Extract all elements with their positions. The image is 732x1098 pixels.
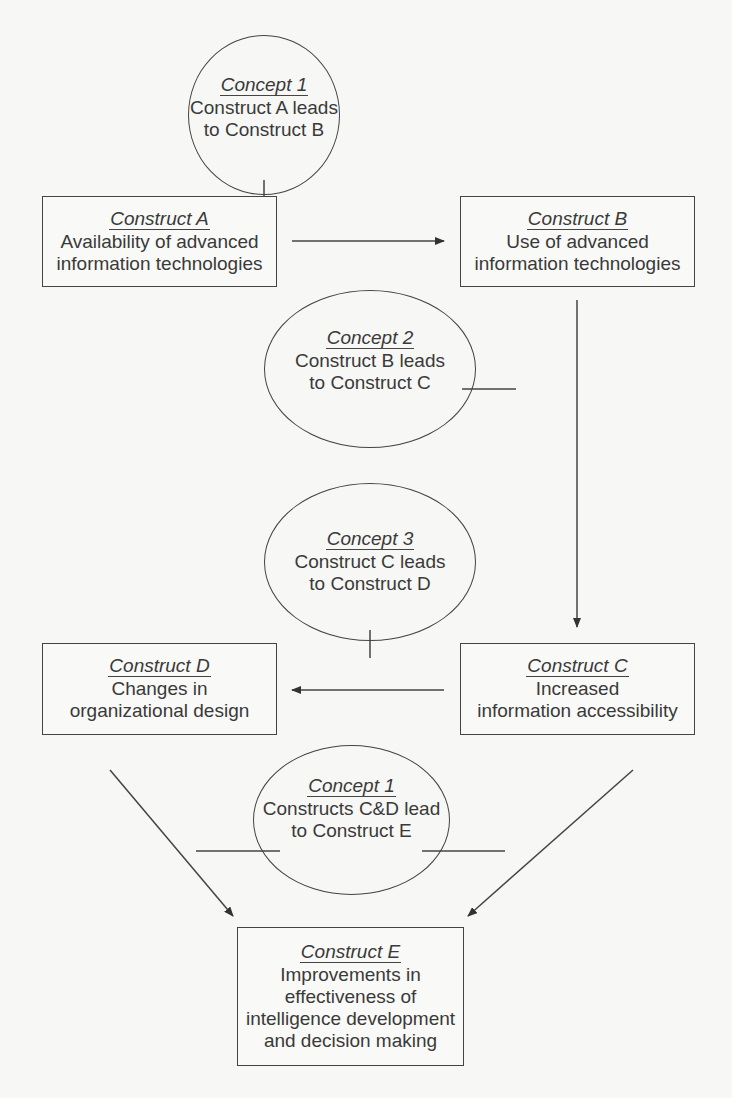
concept-1-ellipse: Concept 1 Construct A leads to Construct… bbox=[188, 35, 340, 195]
construct-c-box: Construct C Increased information access… bbox=[460, 643, 695, 735]
construct-b-box: Construct B Use of advanced information … bbox=[460, 196, 695, 287]
construct-e-line4: and decision making bbox=[264, 1030, 437, 1052]
construct-c-line1: Increased bbox=[536, 678, 619, 700]
construct-e-line1: Improvements in bbox=[280, 964, 420, 986]
concept-4-title: Concept 1 bbox=[307, 776, 396, 797]
construct-b-line1: Use of advanced bbox=[506, 231, 649, 253]
concept-1-line2: to Construct B bbox=[204, 119, 324, 141]
construct-a-box: Construct A Availability of advanced inf… bbox=[42, 196, 277, 287]
concept-4-ellipse: Concept 1 Constructs C&D lead to Constru… bbox=[253, 745, 450, 895]
construct-e-line3: intelligence development bbox=[246, 1008, 455, 1030]
construct-e-title: Construct E bbox=[300, 942, 401, 963]
construct-a-line2: information technologies bbox=[57, 253, 263, 275]
arrow-c-to-e bbox=[468, 770, 633, 916]
concept-2-ellipse: Concept 2 Construct B leads to Construct… bbox=[264, 290, 476, 448]
construct-d-line2: organizational design bbox=[70, 700, 250, 722]
construct-d-box: Construct D Changes in organizational de… bbox=[42, 643, 277, 735]
construct-b-line2: information technologies bbox=[475, 253, 681, 275]
concept-2-title: Concept 2 bbox=[326, 328, 415, 349]
construct-c-line2: information accessibility bbox=[477, 700, 678, 722]
construct-e-line2: effectiveness of bbox=[285, 986, 417, 1008]
concept-3-ellipse: Concept 3 Construct C leads to Construct… bbox=[264, 483, 476, 641]
concept-2-line1: Construct B leads bbox=[295, 350, 445, 372]
concept-3-line2: to Construct D bbox=[309, 573, 430, 595]
construct-a-line1: Availability of advanced bbox=[60, 231, 258, 253]
concept-3-title: Concept 3 bbox=[326, 529, 415, 550]
construct-a-title: Construct A bbox=[109, 209, 210, 230]
construct-c-title: Construct C bbox=[526, 656, 628, 677]
concept-1-title: Concept 1 bbox=[220, 75, 309, 96]
concept-1-line1: Construct A leads bbox=[190, 97, 338, 119]
construct-e-box: Construct E Improvements in effectivenes… bbox=[237, 927, 464, 1066]
construct-d-line1: Changes in bbox=[111, 678, 207, 700]
concept-4-line1: Constructs C&D lead bbox=[263, 798, 440, 820]
concept-4-line2: to Construct E bbox=[291, 820, 411, 842]
concept-2-line2: to Construct C bbox=[309, 372, 430, 394]
arrow-d-to-e bbox=[110, 770, 233, 916]
construct-b-title: Construct B bbox=[527, 209, 628, 230]
concept-3-line1: Construct C leads bbox=[294, 551, 445, 573]
construct-d-title: Construct D bbox=[108, 656, 210, 677]
